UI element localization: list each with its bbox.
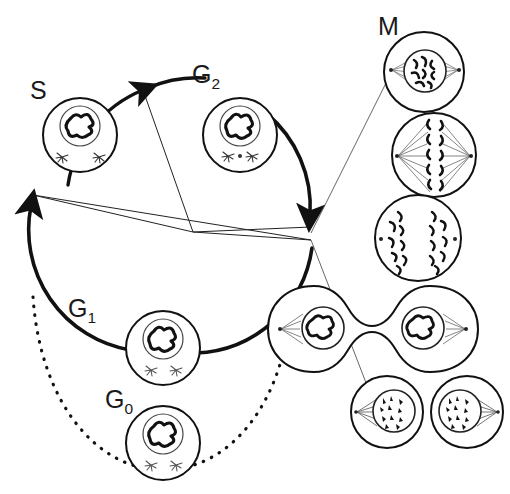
- leader-to-prophase: [311, 73, 391, 233]
- spoke-to-s-boundary: [33, 195, 193, 232]
- daughter-cell-right: [431, 376, 503, 448]
- g0-phase-cell: [126, 406, 200, 480]
- telophase-cell: [268, 286, 478, 372]
- label-m-phase: M: [378, 14, 399, 39]
- daughter-cell-left: [351, 376, 423, 448]
- label-g2-phase: G2: [192, 62, 220, 92]
- label-s-phase: S: [30, 78, 47, 103]
- spoke-to-g2-boundary: [143, 90, 193, 232]
- cell-cycle-figure: S G2 G1 G0 M: [0, 0, 510, 494]
- spoke-hub-upper: [193, 227, 311, 232]
- s-phase-cell: [43, 98, 117, 172]
- spoke-to-m-boundary: [33, 195, 311, 240]
- diagram-canvas: [0, 0, 510, 494]
- prophase-cell: [384, 32, 464, 112]
- anaphase-cell: [375, 195, 461, 281]
- g1-phase-cell: [126, 311, 200, 385]
- label-g1-phase: G1: [68, 296, 96, 326]
- g2-phase-cell: [203, 98, 277, 172]
- metaphase-cell: [392, 113, 476, 197]
- label-g0-phase: G0: [105, 387, 133, 417]
- spoke-hub-lower: [193, 232, 311, 240]
- arc-g1-to-s: [29, 206, 130, 350]
